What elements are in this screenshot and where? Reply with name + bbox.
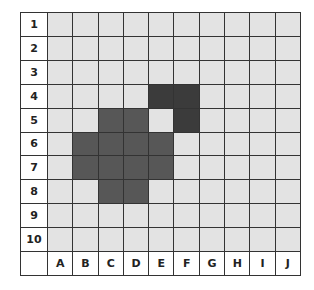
grid-cell-i2	[250, 37, 274, 60]
grid-cell-h6	[225, 133, 249, 156]
grid-cell-i3	[250, 61, 274, 84]
grid-cell-a7	[48, 156, 72, 179]
grid-cell-e1	[149, 13, 173, 36]
grid-cell-j5	[276, 109, 300, 132]
grid-cell-e8	[149, 180, 173, 203]
grid-cell-b1	[73, 13, 97, 36]
grid-cell-f5	[174, 109, 198, 132]
grid-cell-d3	[124, 61, 148, 84]
coordinate-grid: 12345678910ABCDEFGHIJ	[20, 12, 301, 276]
grid-cell-g3	[200, 61, 224, 84]
grid-cell-h2	[225, 37, 249, 60]
grid-cell-h10	[225, 228, 249, 251]
grid-cell-h8	[225, 180, 249, 203]
column-label: D	[124, 252, 148, 275]
grid-cell-g10	[200, 228, 224, 251]
grid-cell-b8	[73, 180, 97, 203]
column-label: I	[250, 252, 274, 275]
grid-cell-i9	[250, 204, 274, 227]
grid-cell-c10	[99, 228, 123, 251]
grid-cell-g7	[200, 156, 224, 179]
column-label: C	[99, 252, 123, 275]
grid-cell-f10	[174, 228, 198, 251]
column-label: E	[149, 252, 173, 275]
column-label: A	[48, 252, 72, 275]
grid-cell-e3	[149, 61, 173, 84]
grid-cell-g6	[200, 133, 224, 156]
grid-cell-d6	[124, 133, 148, 156]
grid-cell-h5	[225, 109, 249, 132]
grid-cell-h4	[225, 85, 249, 108]
grid-cell-b4	[73, 85, 97, 108]
grid-cell-g9	[200, 204, 224, 227]
grid-cell-d5	[124, 109, 148, 132]
grid-cell-e5	[149, 109, 173, 132]
grid-cell-f7	[174, 156, 198, 179]
grid-cell-b3	[73, 61, 97, 84]
grid-cell-f4	[174, 85, 198, 108]
row-label: 9	[21, 204, 47, 227]
grid-cell-a4	[48, 85, 72, 108]
grid-cell-d10	[124, 228, 148, 251]
row-label: 8	[21, 180, 47, 203]
grid-cell-e6	[149, 133, 173, 156]
grid-cell-i6	[250, 133, 274, 156]
column-label: J	[276, 252, 300, 275]
column-label: F	[174, 252, 198, 275]
row-label: 4	[21, 85, 47, 108]
grid-cell-j1	[276, 13, 300, 36]
row-label: 10	[21, 228, 47, 251]
grid-cell-b6	[73, 133, 97, 156]
grid-cell-c2	[99, 37, 123, 60]
grid-cell-a10	[48, 228, 72, 251]
grid-cell-b10	[73, 228, 97, 251]
grid-cell-j2	[276, 37, 300, 60]
grid-cell-h1	[225, 13, 249, 36]
grid-cell-c1	[99, 13, 123, 36]
grid-cell-e9	[149, 204, 173, 227]
grid-cell-b9	[73, 204, 97, 227]
grid-cell-h7	[225, 156, 249, 179]
grid-cell-i10	[250, 228, 274, 251]
column-label: G	[200, 252, 224, 275]
grid-cell-e7	[149, 156, 173, 179]
grid-cell-a5	[48, 109, 72, 132]
grid-cell-e2	[149, 37, 173, 60]
grid-cell-c5	[99, 109, 123, 132]
grid-cell-c4	[99, 85, 123, 108]
grid-cell-d2	[124, 37, 148, 60]
grid-cell-d1	[124, 13, 148, 36]
column-label: H	[225, 252, 249, 275]
grid-cell-b7	[73, 156, 97, 179]
row-label: 5	[21, 109, 47, 132]
grid-cell-j7	[276, 156, 300, 179]
corner-cell	[21, 252, 47, 275]
grid-cell-j6	[276, 133, 300, 156]
grid-cell-j3	[276, 61, 300, 84]
grid-cell-i5	[250, 109, 274, 132]
grid-cell-i7	[250, 156, 274, 179]
grid-cell-g5	[200, 109, 224, 132]
grid-cell-a6	[48, 133, 72, 156]
row-label: 7	[21, 156, 47, 179]
grid-cell-j4	[276, 85, 300, 108]
grid-cell-f8	[174, 180, 198, 203]
grid-cell-j10	[276, 228, 300, 251]
grid-cell-a9	[48, 204, 72, 227]
grid-cell-b5	[73, 109, 97, 132]
grid-cell-i4	[250, 85, 274, 108]
row-label: 3	[21, 61, 47, 84]
grid-cell-d9	[124, 204, 148, 227]
grid-cell-a1	[48, 13, 72, 36]
row-label: 1	[21, 13, 47, 36]
grid-cell-c6	[99, 133, 123, 156]
grid-cell-f2	[174, 37, 198, 60]
grid-cell-c9	[99, 204, 123, 227]
grid-cell-g4	[200, 85, 224, 108]
grid-cell-e10	[149, 228, 173, 251]
grid-cell-g1	[200, 13, 224, 36]
grid-cell-d7	[124, 156, 148, 179]
grid-cell-f1	[174, 13, 198, 36]
grid-cell-i1	[250, 13, 274, 36]
grid-cell-g8	[200, 180, 224, 203]
